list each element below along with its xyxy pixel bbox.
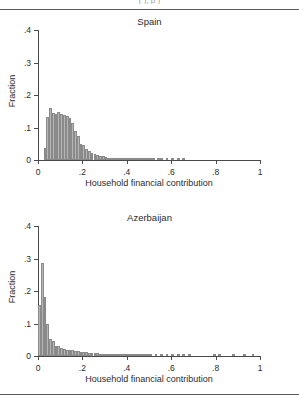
x-tick-mark — [260, 356, 261, 360]
panel-title-spain: Spain — [0, 16, 299, 27]
histogram-bar — [177, 354, 180, 356]
top-rule — [0, 9, 299, 10]
x-tick-label: .2 — [79, 167, 86, 177]
histogram-bar — [182, 354, 185, 356]
y-tick-label: .4 — [24, 221, 31, 231]
y-tick-label: .3 — [24, 58, 31, 68]
y-tick-label: .1 — [24, 123, 31, 133]
histogram-bar — [166, 354, 169, 356]
x-axis-label-spain: Household financial contribution — [38, 178, 260, 188]
x-tick-mark — [216, 356, 217, 360]
x-tick-label: .4 — [123, 167, 130, 177]
x-tick-mark — [82, 160, 83, 164]
bottom-rule — [0, 394, 299, 395]
x-tick-label: .4 — [123, 363, 130, 373]
x-tick-mark — [171, 160, 172, 164]
x-tick-mark — [216, 160, 217, 164]
y-tick-label: .4 — [24, 25, 31, 35]
histogram-bar — [182, 158, 185, 160]
clipped-caption-text: ( ), p ) — [0, 0, 299, 4]
y-tick-label: .2 — [24, 90, 31, 100]
x-axis-label-azerbaijan: Household financial contribution — [38, 374, 260, 384]
y-tick-label: 0 — [26, 351, 31, 361]
x-tick-label: 1 — [258, 167, 263, 177]
histogram-bar — [166, 158, 169, 160]
x-tick-mark — [260, 160, 261, 164]
panel-title-azerbaijan: Azerbaijan — [0, 212, 299, 223]
x-tick-label: 0 — [36, 167, 41, 177]
y-axis-label-spain: Fraction — [7, 61, 17, 121]
y-tick-label: 0 — [26, 155, 31, 165]
histogram-bar — [149, 354, 152, 356]
histogram-bar — [177, 158, 180, 160]
x-tick-mark — [127, 356, 128, 360]
plot-area-spain: 0.1.2.3.4 0.2.4.6.81 — [38, 30, 260, 160]
histogram-bar — [218, 354, 221, 356]
histogram-bar — [232, 354, 235, 356]
histogram-bar — [252, 354, 255, 356]
x-tick-label: .8 — [212, 167, 219, 177]
y-tick-label: .1 — [24, 319, 31, 329]
histogram-bar — [155, 354, 158, 356]
histogram-bar — [160, 158, 163, 160]
x-tick-label: .2 — [79, 363, 86, 373]
chart-panel-spain: Spain Fraction 0.1.2.3.4 0.2.4.6.81 Hous… — [0, 12, 299, 202]
histogram-bar — [188, 354, 191, 356]
histogram-bars-azerbaijan — [38, 226, 260, 356]
histogram-bars-spain — [38, 30, 260, 160]
x-tick-mark — [38, 356, 39, 360]
y-tick-label: .3 — [24, 254, 31, 264]
x-tick-mark — [38, 160, 39, 164]
x-tick-label: .8 — [212, 363, 219, 373]
x-tick-mark — [82, 356, 83, 360]
histogram-bar — [152, 158, 155, 160]
x-tick-label: .6 — [168, 167, 175, 177]
y-tick-label: .2 — [24, 286, 31, 296]
figure-page: ( ), p ) Spain Fraction 0.1.2.3.4 0.2.4.… — [0, 0, 299, 402]
plot-area-azerbaijan: 0.1.2.3.4 0.2.4.6.81 — [38, 226, 260, 356]
x-axis-spine-spain — [38, 160, 260, 161]
x-tick-label: 1 — [258, 363, 263, 373]
x-tick-mark — [127, 160, 128, 164]
histogram-bar — [243, 354, 246, 356]
x-tick-mark — [171, 356, 172, 360]
x-tick-label: 0 — [36, 363, 41, 373]
x-axis-spine-azerbaijan — [38, 356, 260, 357]
y-axis-label-azerbaijan: Fraction — [7, 257, 17, 317]
chart-panel-azerbaijan: Azerbaijan Fraction 0.1.2.3.4 0.2.4.6.81… — [0, 208, 299, 398]
x-tick-label: .6 — [168, 363, 175, 373]
histogram-bar — [160, 354, 163, 356]
